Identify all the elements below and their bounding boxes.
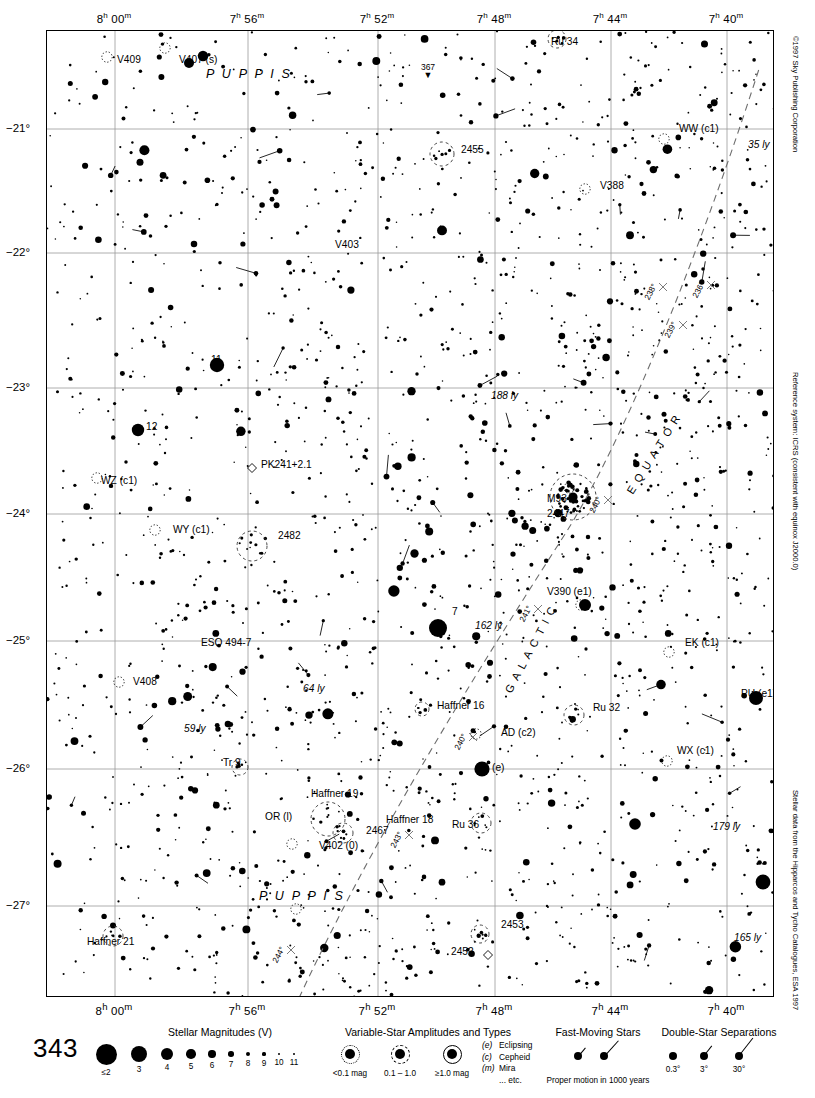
star-marker (442, 348, 444, 350)
star-marker (408, 716, 410, 718)
star-marker (652, 776, 657, 781)
star-marker (289, 318, 293, 322)
star-marker (253, 955, 258, 960)
star-marker (356, 697, 358, 699)
star-marker (600, 211, 602, 213)
star-marker (614, 674, 617, 677)
variable-star-symbol (150, 525, 160, 535)
star-marker (156, 828, 160, 832)
star-marker (62, 539, 65, 542)
star-marker (337, 647, 340, 650)
star-marker (772, 474, 773, 477)
proper-motion-arrow (274, 348, 283, 367)
star-marker (185, 684, 189, 688)
star-marker (588, 101, 590, 103)
star-marker (402, 173, 404, 175)
star-marker (165, 176, 168, 179)
star-marker (416, 495, 421, 500)
star-marker (181, 701, 183, 703)
star-marker (562, 191, 564, 193)
star-marker (735, 592, 740, 597)
star-marker (623, 121, 628, 126)
star-marker (666, 585, 668, 587)
object-label: 2455 (461, 144, 484, 155)
star-marker (58, 567, 60, 569)
star-marker (698, 229, 700, 231)
star-marker (519, 774, 522, 777)
star-marker (307, 776, 310, 779)
star-marker (82, 704, 84, 706)
proper-motion-arrow (730, 787, 741, 794)
star-marker (74, 237, 77, 240)
star-marker (351, 571, 354, 574)
star-marker (688, 147, 690, 149)
star-marker (687, 392, 689, 394)
star-marker (648, 919, 650, 921)
star-marker (202, 841, 204, 843)
star-marker (650, 84, 653, 87)
star-marker (205, 838, 207, 840)
star-marker (144, 376, 146, 378)
star-marker (530, 519, 532, 521)
star-marker (749, 479, 751, 481)
star-marker (586, 372, 591, 377)
star-marker (462, 256, 464, 258)
star-marker (714, 325, 716, 327)
star-marker (232, 925, 234, 927)
star-marker (111, 802, 113, 804)
star-marker (236, 424, 238, 426)
star-marker (81, 745, 83, 747)
star-marker (710, 781, 712, 783)
object-label: V402 (0) (319, 840, 358, 851)
star-marker (481, 848, 483, 850)
star-marker (691, 539, 693, 541)
star-marker (275, 136, 277, 138)
star-marker (137, 159, 144, 166)
star-marker (697, 619, 699, 621)
star-marker (522, 880, 525, 883)
star-marker (154, 337, 156, 339)
star-marker (693, 815, 695, 817)
star-marker (248, 417, 251, 420)
star-marker (712, 803, 714, 805)
star-marker (483, 796, 488, 801)
cluster-member-star (438, 150, 440, 152)
star-marker (313, 960, 315, 962)
star-marker (605, 618, 607, 620)
star-marker (323, 517, 326, 520)
star-marker (125, 554, 127, 556)
star-marker (606, 907, 608, 909)
star-marker (514, 185, 516, 187)
star-marker (653, 194, 655, 196)
star-marker (284, 589, 286, 591)
star-marker (679, 427, 682, 430)
star-marker (738, 974, 740, 976)
star-marker (128, 698, 130, 700)
legend-magnitude-dot (208, 1050, 215, 1057)
star-marker (335, 935, 338, 938)
cluster-member-star (482, 937, 484, 939)
star-marker (585, 366, 587, 368)
star-marker (714, 371, 716, 373)
star-marker (628, 675, 631, 678)
star-marker (222, 704, 225, 707)
star-marker (68, 81, 73, 86)
star-marker (575, 548, 579, 552)
star-marker (62, 521, 64, 523)
star-marker (523, 859, 530, 866)
star-marker (630, 579, 634, 583)
star-marker (154, 869, 156, 871)
star-marker (661, 332, 663, 334)
star-marker (96, 319, 98, 321)
star-marker (729, 114, 731, 116)
star-marker (431, 555, 434, 558)
star-marker (733, 210, 736, 213)
star-marker (561, 762, 563, 764)
star-marker (493, 567, 495, 569)
star-marker (487, 660, 493, 666)
star-marker (743, 83, 747, 87)
star-marker (383, 142, 385, 144)
star-marker (255, 218, 257, 220)
star-marker (304, 440, 306, 442)
star-marker (533, 423, 537, 427)
